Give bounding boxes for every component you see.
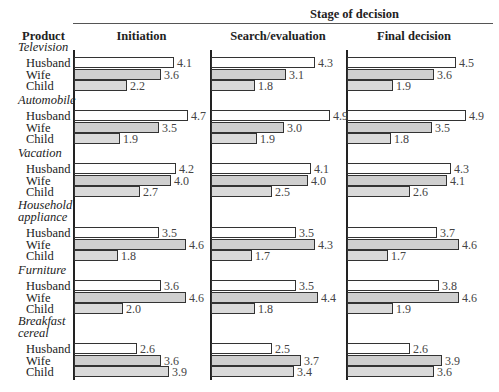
value-label: 2.6 <box>413 343 428 355</box>
bar-husband <box>74 280 161 291</box>
bar-wife <box>211 175 308 186</box>
bar-child <box>347 80 393 91</box>
value-label: 1.9 <box>396 80 411 92</box>
bar-husband <box>211 57 315 68</box>
bar-husband <box>211 110 330 121</box>
bar-husband <box>74 110 188 121</box>
value-label: 4.7 <box>191 110 206 122</box>
value-label: 4.5 <box>459 57 474 69</box>
member-label: Child <box>26 186 54 198</box>
bar-wife <box>74 239 186 250</box>
product-label: Television <box>18 41 68 53</box>
member-label: Child <box>26 250 54 262</box>
bar-child <box>211 80 255 91</box>
value-label: 3.1 <box>289 69 304 81</box>
bar-wife <box>347 239 459 250</box>
value-label: 2.6 <box>140 343 155 355</box>
value-label: 4.9 <box>469 110 484 122</box>
value-label: 1.7 <box>391 250 406 262</box>
bar-child <box>211 186 272 197</box>
value-label: 4.1 <box>177 57 192 69</box>
bar-husband <box>211 280 296 291</box>
value-label: 2.5 <box>275 343 290 355</box>
product-label: cereal <box>18 327 49 339</box>
product-label: Vacation <box>18 147 62 159</box>
bar-child <box>74 80 127 91</box>
value-label: 3.4 <box>297 366 312 378</box>
value-label: 3.6 <box>164 280 179 292</box>
value-label: 3.9 <box>172 366 187 378</box>
bar-wife <box>347 292 459 303</box>
value-label: 1.9 <box>260 133 275 145</box>
value-label: 3.5 <box>299 280 314 292</box>
column-header-search: Search/evaluation <box>210 29 346 44</box>
value-label: 2.7 <box>143 186 158 198</box>
bar-wife <box>347 355 442 366</box>
bar-wife <box>74 175 171 186</box>
value-label: 1.9 <box>396 303 411 315</box>
value-label: 1.8 <box>258 80 273 92</box>
bar-wife <box>347 69 434 80</box>
value-label: 1.7 <box>255 250 270 262</box>
member-label: Child <box>26 366 54 378</box>
value-label: 4.6 <box>189 239 204 251</box>
value-label: 3.6 <box>164 69 179 81</box>
value-label: 3.6 <box>437 366 452 378</box>
bar-wife <box>211 355 301 366</box>
value-label: 1.9 <box>123 133 138 145</box>
bar-child <box>74 303 123 314</box>
bar-wife <box>74 292 186 303</box>
bar-husband <box>347 110 466 121</box>
column-header-final: Final decision <box>346 29 482 44</box>
bar-wife <box>211 292 318 303</box>
bar-husband <box>347 343 410 354</box>
axis-search <box>210 50 212 380</box>
value-label: 4.6 <box>462 239 477 251</box>
value-label: 4.0 <box>174 175 189 187</box>
value-label: 4.3 <box>318 57 333 69</box>
value-label: 4.1 <box>450 175 465 187</box>
value-label: 2.6 <box>413 186 428 198</box>
bar-wife <box>211 69 286 80</box>
value-label: 4.6 <box>189 292 204 304</box>
bar-child <box>74 186 140 197</box>
bar-child <box>347 250 388 261</box>
column-header-initiation: Initiation <box>73 29 210 44</box>
product-label: Automobile <box>18 94 76 106</box>
bar-husband <box>347 163 451 174</box>
value-label: 3.0 <box>287 122 302 134</box>
bar-wife <box>74 355 161 366</box>
value-label: 4.3 <box>318 239 333 251</box>
value-label: 4.9 <box>333 110 348 122</box>
value-label: 3.6 <box>437 69 452 81</box>
value-label: 2.0 <box>126 303 141 315</box>
bar-husband <box>347 280 439 291</box>
value-label: 3.8 <box>442 280 457 292</box>
member-label: Child <box>26 80 54 92</box>
bar-wife <box>211 122 284 133</box>
bar-wife <box>74 122 159 133</box>
value-label: 3.5 <box>435 122 450 134</box>
value-label: 1.8 <box>258 303 273 315</box>
bar-child <box>347 133 391 144</box>
bar-child <box>211 303 255 314</box>
value-label: 3.5 <box>299 227 314 239</box>
stage-divider <box>73 23 493 24</box>
bar-husband <box>74 57 174 68</box>
bar-husband <box>347 227 437 238</box>
bar-husband <box>74 227 159 238</box>
member-label: Child <box>26 133 54 145</box>
stage-title: Stage of decision <box>210 7 499 22</box>
value-label: 1.8 <box>121 250 136 262</box>
bar-child <box>211 366 294 377</box>
bar-child <box>74 133 120 144</box>
bar-husband <box>211 343 272 354</box>
bar-child <box>211 250 252 261</box>
bar-husband <box>74 163 176 174</box>
bar-wife <box>347 175 447 186</box>
product-label: Furniture <box>18 264 66 276</box>
bar-husband <box>211 163 311 174</box>
value-label: 3.5 <box>162 122 177 134</box>
bar-wife <box>347 122 432 133</box>
value-label: 4.6 <box>462 292 477 304</box>
